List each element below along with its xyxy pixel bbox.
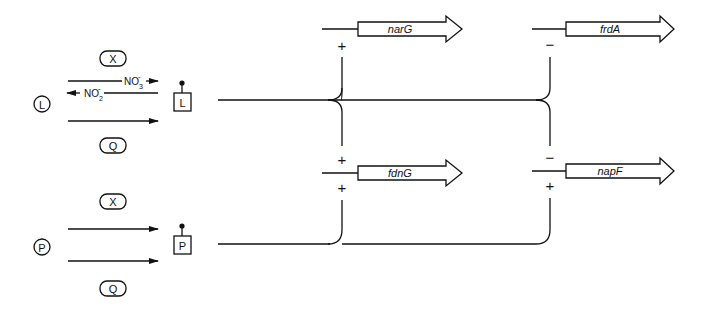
sign-fdnG-L: + [338, 151, 347, 168]
sensor-P-group: P X Q P [34, 194, 191, 296]
sign-narG-L: + [338, 37, 347, 54]
gene-narG-label: narG [388, 23, 413, 35]
sign-fdnG-P: + [338, 179, 347, 196]
sign-napF-L: − [546, 149, 555, 166]
gene-fdnG-label: fdnG [388, 167, 412, 179]
nitrate-label: NO3- [124, 72, 143, 90]
sensor-P-label: P [38, 242, 45, 254]
signal-X-L-label: X [109, 53, 117, 65]
sensor-L-label: L [39, 99, 45, 111]
sign-napF-P: + [546, 177, 555, 194]
signal-Q-P-label: Q [109, 283, 118, 295]
phosphate-L-icon [179, 80, 184, 85]
P-regulation-lines [218, 198, 550, 244]
signal-Q-L-label: Q [109, 140, 118, 152]
gene-napF-label: napF [597, 165, 623, 177]
nitrite-label: NO2- [84, 84, 103, 102]
sign-frdA-L: − [546, 36, 555, 53]
sensor-L-group: L X NO3- NO2- Q L [34, 51, 191, 153]
signal-X-P-label: X [109, 196, 117, 208]
phosphate-P-icon [179, 223, 184, 228]
gene-frdA-label: frdA [600, 23, 620, 35]
L-regulation-lines [218, 57, 550, 146]
regulator-P-label: P [179, 240, 186, 252]
regulator-L-label: L [179, 97, 185, 109]
regulatory-diagram: L X NO3- NO2- Q L P X Q P [0, 0, 703, 315]
